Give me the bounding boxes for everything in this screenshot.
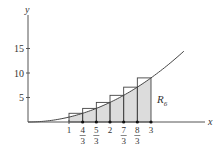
x-tick-label: 1 (67, 125, 72, 135)
x-tick-label: 4 (80, 125, 85, 135)
y-tick-label: 15 (14, 43, 24, 54)
x-tick-denominator: 3 (135, 136, 140, 146)
x-tick-label: 7 (121, 125, 126, 135)
x-tick-label: 2 (108, 125, 113, 135)
y-tick-label: 10 (14, 68, 24, 79)
y-axis-label: y (24, 4, 30, 15)
x-tick-label: 3 (149, 125, 154, 135)
x-axis-label: x (207, 116, 213, 127)
partition-point (122, 120, 125, 123)
x-tick-denominator: 3 (80, 136, 85, 146)
x-tick-label: 5 (94, 125, 99, 135)
partition-point (95, 120, 98, 123)
region-label: R6 (156, 93, 168, 108)
x-axis-ticks: 14353273833 (67, 120, 154, 146)
partition-point (108, 120, 111, 123)
x-tick-label: 8 (135, 125, 140, 135)
partition-point (81, 120, 84, 123)
y-tick-label: 5 (19, 92, 24, 103)
x-tick-denominator: 3 (121, 136, 126, 146)
partition-point (149, 120, 152, 123)
x-tick-denominator: 3 (94, 136, 99, 146)
partition-point (136, 120, 139, 123)
riemann-sum-figure: x y 51015 14353273833 R6 (0, 0, 221, 154)
